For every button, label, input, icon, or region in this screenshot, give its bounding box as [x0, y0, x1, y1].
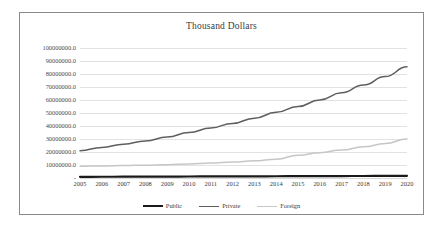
x-axis-tick-label: 2005: [74, 181, 87, 187]
y-axis-tick-label: 100000000.0: [42, 45, 76, 51]
legend-label: Public: [166, 203, 182, 209]
legend-swatch-icon: [143, 205, 163, 207]
y-axis-tick-label: 20000000.0: [46, 149, 76, 155]
legend-label: Foreign: [280, 203, 300, 209]
x-axis-tick-label: 2013: [248, 181, 261, 187]
x-axis-tick-label: 2016: [313, 181, 326, 187]
legend-swatch-icon: [257, 206, 277, 207]
series-line-private: [80, 67, 407, 151]
legend-item-foreign[interactable]: Foreign: [257, 203, 300, 209]
y-axis-tick-label: 60000000.0: [46, 97, 76, 103]
x-axis-tick-label: 2009: [161, 181, 174, 187]
series-line-public: [80, 176, 407, 177]
legend-item-private[interactable]: Private: [199, 203, 240, 209]
legend-label: Private: [222, 203, 240, 209]
gridline: [80, 178, 407, 179]
y-axis-tick-label: 80000000.0: [46, 71, 76, 77]
legend-item-public[interactable]: Public: [143, 203, 182, 209]
x-axis-tick-labels: 2005200620072008200920102011201220132014…: [80, 181, 407, 193]
y-axis-tick-label: 70000000.0: [46, 84, 76, 90]
x-axis-tick-label: 2020: [401, 181, 414, 187]
x-axis-tick-label: 2011: [205, 181, 218, 187]
y-axis-tick-label: 10000000.0: [46, 162, 76, 168]
x-axis-tick-label: 2015: [292, 181, 305, 187]
x-axis-tick-label: 2012: [226, 181, 239, 187]
chart-title: Thousand Dollars: [20, 21, 423, 31]
y-axis-tick-label: 50000000.0: [46, 110, 76, 116]
x-axis-tick-label: 2008: [139, 181, 152, 187]
y-axis-tick-label: 30000000.0: [46, 136, 76, 142]
x-axis-tick-label: 2018: [357, 181, 370, 187]
x-axis-tick-label: 2017: [335, 181, 348, 187]
x-axis-tick-label: 2014: [270, 181, 283, 187]
plot-area: 100000000.090000000.080000000.070000000.…: [80, 48, 407, 178]
y-axis-tick-label: 40000000.0: [46, 123, 76, 129]
chart-legend: PublicPrivateForeign: [20, 203, 423, 209]
x-axis-tick-label: 2006: [95, 181, 108, 187]
x-axis-tick-label: 2019: [379, 181, 392, 187]
x-axis-tick-label: 2010: [183, 181, 196, 187]
series-lines: [80, 48, 407, 178]
chart-frame: Thousand Dollars 100000000.090000000.080…: [19, 12, 424, 215]
y-axis-tick-label: 90000000.0: [46, 58, 76, 64]
legend-swatch-icon: [199, 206, 219, 207]
x-axis-tick-label: 2007: [117, 181, 130, 187]
